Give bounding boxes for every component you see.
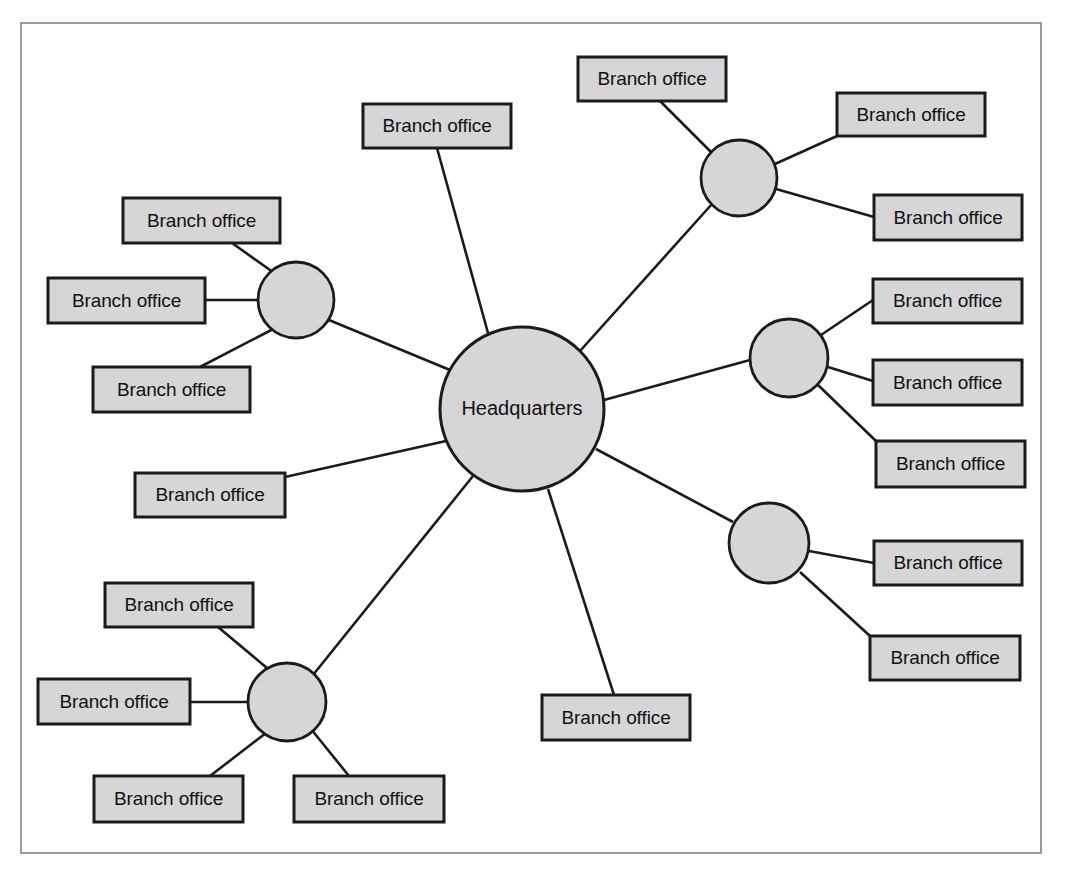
hub-circle[interactable] — [750, 319, 828, 397]
branch-office-node[interactable]: Branch office — [837, 93, 985, 136]
hub-circle[interactable] — [258, 262, 334, 338]
headquarters-node[interactable]: Headquarters — [440, 327, 604, 491]
branch-office-node[interactable]: Branch office — [294, 776, 444, 822]
hub-node[interactable] — [701, 140, 777, 216]
branch-office-node[interactable]: Branch office — [48, 278, 205, 323]
branch-office-label: Branch office — [893, 552, 1002, 573]
branch-office-node[interactable]: Branch office — [38, 679, 190, 724]
branch-office-node[interactable]: Branch office — [578, 57, 726, 101]
branch-office-node[interactable]: Branch office — [873, 360, 1022, 405]
branch-office-node[interactable]: Branch office — [93, 367, 250, 412]
branch-office-label: Branch office — [117, 379, 226, 400]
branch-office-label: Branch office — [155, 484, 264, 505]
branch-office-label: Branch office — [890, 647, 999, 668]
hub-node[interactable] — [729, 503, 809, 583]
branch-office-node[interactable]: Branch office — [542, 695, 690, 740]
hub-node[interactable] — [258, 262, 334, 338]
branch-office-label: Branch office — [147, 210, 256, 231]
branch-office-label: Branch office — [59, 691, 168, 712]
branch-office-node[interactable]: Branch office — [94, 776, 243, 822]
headquarters-label: Headquarters — [461, 397, 582, 419]
branch-office-node[interactable]: Branch office — [135, 473, 285, 517]
branch-office-label: Branch office — [72, 290, 181, 311]
branch-office-node[interactable]: Branch office — [876, 441, 1025, 487]
branch-office-label: Branch office — [856, 104, 965, 125]
branch-office-node[interactable]: Branch office — [874, 195, 1022, 240]
hub-circle[interactable] — [729, 503, 809, 583]
branch-office-label: Branch office — [124, 594, 233, 615]
hub-circle[interactable] — [701, 140, 777, 216]
hub-node[interactable] — [750, 319, 828, 397]
network-diagram: Branch officeBranch officeBranch officeB… — [0, 0, 1065, 870]
network-diagram-canvas: Branch officeBranch officeBranch officeB… — [0, 0, 1065, 870]
branch-office-label: Branch office — [893, 207, 1002, 228]
hub-circle[interactable] — [248, 663, 326, 741]
branch-office-node[interactable]: Branch office — [105, 583, 253, 627]
hub-node[interactable] — [248, 663, 326, 741]
branch-office-label: Branch office — [597, 68, 706, 89]
branch-office-label: Branch office — [114, 788, 223, 809]
branch-office-node[interactable]: Branch office — [363, 104, 511, 148]
branch-office-label: Branch office — [382, 115, 491, 136]
branch-office-label: Branch office — [314, 788, 423, 809]
branch-office-node[interactable]: Branch office — [873, 279, 1022, 323]
branch-office-label: Branch office — [893, 372, 1002, 393]
branch-office-label: Branch office — [893, 290, 1002, 311]
branch-office-node[interactable]: Branch office — [870, 636, 1020, 680]
branch-office-label: Branch office — [896, 453, 1005, 474]
headquarters-node-layer: Headquarters — [440, 327, 604, 491]
branch-office-node[interactable]: Branch office — [874, 541, 1022, 585]
branch-office-node[interactable]: Branch office — [123, 198, 280, 243]
branch-office-label: Branch office — [561, 707, 670, 728]
